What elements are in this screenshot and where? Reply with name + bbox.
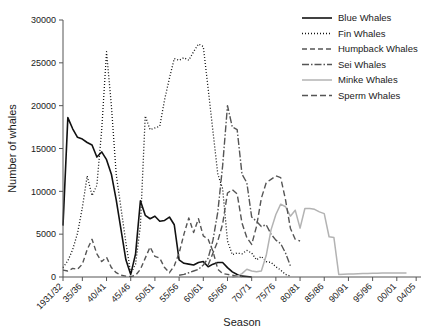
legend-label-minke-whales: Minke Whales — [338, 74, 398, 85]
x-tick-label: 55/56 — [158, 281, 181, 304]
legend-label-blue-whales: Blue Whales — [338, 12, 392, 23]
x-tick-label: 70/71 — [230, 281, 253, 304]
series-line-sei-whales — [179, 106, 290, 276]
x-axis-title: Season — [223, 316, 260, 328]
legend-label-fin-whales: Fin Whales — [338, 28, 386, 39]
x-tick-label: 65/66 — [206, 281, 229, 304]
y-tick-label: 30000 — [31, 15, 56, 25]
x-tick-label: 40/41 — [85, 281, 108, 304]
legend-label-humpback-whales: Humpback Whales — [338, 43, 418, 54]
y-axis-title: Number of whales — [6, 104, 18, 193]
y-tick-label: 25000 — [31, 58, 56, 68]
x-tick-label: 95/96 — [351, 281, 374, 304]
legend-label-sperm-whales: Sperm Whales — [338, 90, 401, 101]
x-tick-label: 50/51 — [133, 281, 156, 304]
whale-catch-line-chart: 0500010000150002000025000300001931/3235/… — [0, 0, 437, 332]
chart-canvas: 0500010000150002000025000300001931/3235/… — [0, 0, 437, 332]
x-tick-label: 00/01 — [375, 281, 398, 304]
series-line-sperm-whales — [208, 176, 300, 265]
x-tick-label: 04/05 — [395, 281, 418, 304]
x-tick-label: 75/76 — [254, 281, 277, 304]
y-tick-label: 15000 — [31, 144, 56, 154]
x-tick-label: 60/61 — [182, 281, 205, 304]
x-tick-label: 45/46 — [109, 281, 132, 304]
x-tick-label: 90/91 — [327, 281, 350, 304]
x-tick-label: 35/36 — [61, 281, 84, 304]
legend-label-sei-whales: Sei Whales — [338, 59, 386, 70]
x-tick-label: 1931/32 — [34, 281, 64, 311]
y-tick-label: 5000 — [36, 229, 56, 239]
y-tick-label: 10000 — [31, 187, 56, 197]
y-tick-label: 0 — [51, 272, 56, 282]
y-tick-label: 20000 — [31, 101, 56, 111]
chart-legend: Blue WhalesFin WhalesHumpback WhalesSei … — [302, 12, 418, 101]
x-tick-label: 80/81 — [278, 281, 301, 304]
x-tick-label: 85/86 — [303, 281, 326, 304]
series-line-minke-whales — [232, 204, 406, 277]
